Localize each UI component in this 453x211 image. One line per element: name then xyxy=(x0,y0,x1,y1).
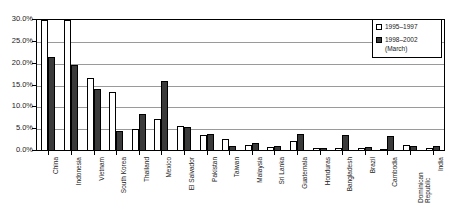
y-axis-tick xyxy=(32,106,36,107)
x-axis-tick-label: Malaysia xyxy=(240,156,263,211)
x-axis-tick-label: Brazil xyxy=(354,156,377,211)
bar xyxy=(207,134,214,151)
x-axis-tick-label: Guatemala xyxy=(286,156,309,211)
x-axis-tick-label: China xyxy=(37,156,60,211)
bar xyxy=(252,143,259,151)
x-axis-tick xyxy=(82,151,105,155)
y-axis-tick xyxy=(32,128,36,129)
bar xyxy=(116,131,123,151)
y-axis-tick xyxy=(32,41,36,42)
y-axis-tick xyxy=(32,19,36,20)
bar xyxy=(139,114,146,151)
x-axis-ticks xyxy=(37,151,444,155)
bar-group xyxy=(173,20,196,151)
bar-chart: 30.0%25.0%20.0%15.0%10.0%5.0%0.0% ChinaI… xyxy=(0,0,453,211)
bar xyxy=(94,89,101,151)
x-axis-tick-label: Honduras xyxy=(308,156,331,211)
bar xyxy=(200,135,207,151)
bar xyxy=(64,20,71,151)
x-axis-tick xyxy=(331,151,354,155)
y-axis-tick-label: 0.0% xyxy=(16,146,33,154)
bar-group xyxy=(150,20,173,151)
x-axis-tick-label: Dominican Republic xyxy=(399,156,422,211)
bar-group xyxy=(286,20,309,151)
bar xyxy=(342,135,349,151)
bar xyxy=(177,126,184,151)
bar xyxy=(48,57,55,151)
x-axis-tick-label: Indonesia xyxy=(60,156,83,211)
x-axis-tick-label: Bangladesh xyxy=(331,156,354,211)
bar-group xyxy=(263,20,286,151)
x-axis-tick-label: Thailand xyxy=(127,156,150,211)
legend-item-1998-2002: 1998–2002(March) xyxy=(376,36,437,54)
bar-group xyxy=(127,20,150,151)
y-axis-tick-label: 15.0% xyxy=(12,81,33,89)
bar xyxy=(161,81,168,151)
bar-group xyxy=(308,20,331,151)
x-axis-tick xyxy=(150,151,173,155)
x-axis-tick-label: Mexico xyxy=(150,156,173,211)
y-axis-tick-label: 10.0% xyxy=(12,103,33,111)
x-axis-tick-label: Sri Lanka xyxy=(263,156,286,211)
x-axis-tick xyxy=(173,151,196,155)
y-axis-tick-label: 5.0% xyxy=(16,124,33,132)
legend-label-series-a: 1995–1997 xyxy=(385,23,418,32)
x-axis-tick-label: India xyxy=(421,156,444,211)
bar-group xyxy=(37,20,60,151)
legend-swatch-icon-series-b xyxy=(376,37,382,43)
bar-group xyxy=(60,20,83,151)
x-axis-tick xyxy=(240,151,263,155)
x-axis-tick xyxy=(421,151,444,155)
x-axis-tick xyxy=(354,151,377,155)
x-axis-tick xyxy=(263,151,286,155)
x-axis-tick xyxy=(286,151,309,155)
x-axis-tick-label: Taiwan xyxy=(218,156,241,211)
bar xyxy=(154,119,161,151)
y-axis-labels: 30.0%25.0%20.0%15.0%10.0%5.0%0.0% xyxy=(0,0,33,211)
x-axis-tick-label: Pakistan xyxy=(195,156,218,211)
x-axis-tick xyxy=(218,151,241,155)
legend-label-series-b: 1998–2002(March) xyxy=(385,36,418,54)
y-axis-tick xyxy=(32,85,36,86)
bar xyxy=(41,20,48,151)
x-axis-tick-label: South Korea xyxy=(105,156,128,211)
bar xyxy=(71,65,78,151)
y-axis-tick-label: 30.0% xyxy=(12,15,33,23)
bar xyxy=(387,136,394,151)
y-axis-tick xyxy=(32,63,36,64)
legend-swatch-icon-series-a xyxy=(376,24,382,30)
bar-group xyxy=(82,20,105,151)
bar-group xyxy=(195,20,218,151)
x-axis-tick xyxy=(195,151,218,155)
y-axis-tick xyxy=(32,150,36,151)
x-axis-tick xyxy=(127,151,150,155)
bar-group xyxy=(331,20,354,151)
bar xyxy=(297,134,304,151)
bar-group xyxy=(105,20,128,151)
bar xyxy=(290,141,297,151)
bar xyxy=(87,78,94,151)
y-axis-tick-label: 25.0% xyxy=(12,37,33,45)
x-axis-tick xyxy=(60,151,83,155)
bar xyxy=(132,129,139,151)
x-axis-labels: ChinaIndonesiaVietnamSouth KoreaThailand… xyxy=(37,156,444,211)
x-axis-tick xyxy=(308,151,331,155)
bar xyxy=(184,127,191,151)
x-axis-tick xyxy=(37,151,60,155)
bar-group xyxy=(218,20,241,151)
bar-group xyxy=(240,20,263,151)
x-axis-tick xyxy=(105,151,128,155)
x-axis-tick-label: Vietnam xyxy=(82,156,105,211)
x-axis-tick-label: El Salvador xyxy=(173,156,196,211)
x-axis-tick xyxy=(376,151,399,155)
legend-item-1995-1997: 1995–1997 xyxy=(376,23,437,32)
y-axis-tick-label: 20.0% xyxy=(12,59,33,67)
x-axis-tick-label: Cambodia xyxy=(376,156,399,211)
bar xyxy=(222,139,229,151)
bar xyxy=(109,92,116,151)
chart-legend: 1995–1997 1998–2002(March) xyxy=(372,19,442,58)
x-axis-tick xyxy=(399,151,422,155)
